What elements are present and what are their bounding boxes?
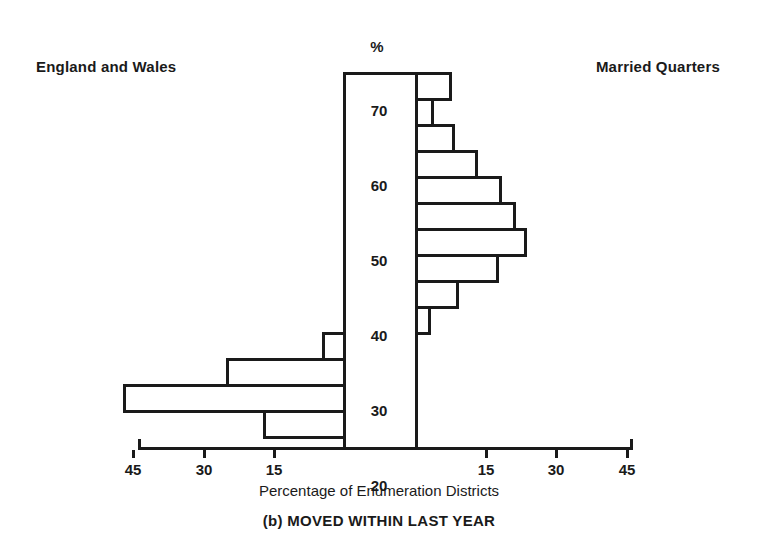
bar-england-and-wales xyxy=(226,358,346,387)
x-axis-left-cap xyxy=(138,439,141,450)
x-axis-tick xyxy=(485,450,488,458)
bar-married-quarters xyxy=(412,228,527,257)
bar-england-and-wales xyxy=(263,410,346,439)
x-axis-tick xyxy=(555,450,558,458)
plot-area: 70605040302010 453015153045 xyxy=(0,0,758,540)
bar-married-quarters xyxy=(412,150,478,179)
bar-married-quarters xyxy=(412,254,499,283)
centre-scale-column xyxy=(343,72,418,450)
bar-married-quarters xyxy=(412,176,502,205)
bar-married-quarters xyxy=(412,72,452,101)
x-axis-tick-label: 15 xyxy=(478,461,495,478)
x-axis-tick-label: 45 xyxy=(125,461,142,478)
x-axis-tick-label: 30 xyxy=(548,461,565,478)
figure-caption: (b) MOVED WITHIN LAST YEAR xyxy=(0,512,758,529)
bar-married-quarters xyxy=(412,202,516,231)
bar-married-quarters xyxy=(412,124,455,153)
bar-married-quarters xyxy=(412,280,459,309)
x-axis-tick xyxy=(273,450,276,458)
x-axis-tick xyxy=(626,450,629,458)
x-axis-tick xyxy=(203,450,206,458)
x-axis-tick-label: 45 xyxy=(619,461,636,478)
x-axis-tick xyxy=(132,450,135,458)
x-axis-title: Percentage of Enumeration Districts xyxy=(0,482,758,499)
figure-moved-within-last-year: England and Wales Married Quarters % 706… xyxy=(0,0,758,540)
bar-england-and-wales xyxy=(123,384,346,413)
x-axis-right-cap xyxy=(630,439,633,450)
x-axis-tick-label: 15 xyxy=(266,461,283,478)
x-axis-tick-label: 30 xyxy=(196,461,213,478)
